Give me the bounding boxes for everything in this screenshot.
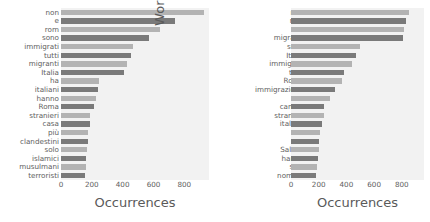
y-tick-label: più bbox=[16, 128, 60, 137]
bar bbox=[291, 10, 409, 15]
bar bbox=[61, 10, 204, 15]
bar bbox=[61, 53, 131, 58]
bar bbox=[61, 173, 85, 178]
bar-row bbox=[291, 51, 424, 60]
bar-row bbox=[61, 120, 209, 129]
bar bbox=[291, 130, 320, 135]
y-tick-labels-left: noneromsonoimmigratituttimigrantiItaliah… bbox=[16, 8, 60, 180]
bar-row bbox=[61, 42, 209, 51]
bar bbox=[291, 70, 344, 75]
bar bbox=[291, 35, 403, 40]
bar-row bbox=[291, 42, 424, 51]
bar-row bbox=[291, 68, 424, 77]
y-tick-label: solo bbox=[16, 146, 60, 155]
bar bbox=[291, 139, 319, 144]
x-tick-label: 400 bbox=[340, 181, 354, 188]
bar-row bbox=[291, 163, 424, 172]
bar-row bbox=[291, 94, 424, 103]
bar-row bbox=[291, 77, 424, 86]
bar-row bbox=[61, 77, 209, 86]
bar bbox=[291, 164, 317, 169]
bar bbox=[291, 87, 335, 92]
figure: Word noneromsonoimmigratituttimigrantiIt… bbox=[0, 0, 430, 222]
bar-row bbox=[291, 171, 424, 180]
x-tick-label: 200 bbox=[312, 181, 326, 188]
bar-row bbox=[61, 171, 209, 180]
bar bbox=[291, 96, 330, 101]
bar-row bbox=[61, 128, 209, 137]
bar-row bbox=[61, 25, 209, 34]
bar-row bbox=[61, 137, 209, 146]
bar-row bbox=[291, 128, 424, 137]
bar-series-right bbox=[291, 8, 424, 180]
y-tick-label: Roma bbox=[16, 103, 60, 112]
bar-row bbox=[291, 111, 424, 120]
bar bbox=[291, 53, 356, 58]
bar-row bbox=[61, 163, 209, 172]
bar-row bbox=[61, 154, 209, 163]
bar-row bbox=[61, 103, 209, 112]
bar-row bbox=[61, 146, 209, 155]
bar bbox=[291, 121, 322, 126]
bar bbox=[291, 147, 319, 152]
x-tick-label: 200 bbox=[85, 181, 99, 188]
plot-area-left bbox=[61, 8, 209, 180]
y-tick-label: terroristi bbox=[16, 171, 60, 180]
bar-row bbox=[61, 8, 209, 17]
bar bbox=[61, 147, 87, 152]
bar bbox=[291, 173, 316, 178]
x-tick-label: 600 bbox=[147, 181, 161, 188]
y-tick-label: musulmani bbox=[16, 163, 60, 172]
bar-row bbox=[61, 60, 209, 69]
bar bbox=[61, 35, 149, 40]
bar bbox=[61, 121, 90, 126]
y-tick-label: e bbox=[16, 17, 60, 26]
y-tick-label: migranti bbox=[16, 60, 60, 69]
bar-row bbox=[291, 146, 424, 155]
chart-panel-left: Word noneromsonoimmigratituttimigrantiIt… bbox=[0, 0, 215, 222]
x-tick-label: 800 bbox=[177, 181, 191, 188]
bar-row bbox=[291, 34, 424, 43]
x-tick-label: 400 bbox=[116, 181, 130, 188]
bar-row bbox=[61, 68, 209, 77]
bar bbox=[291, 78, 342, 83]
bar bbox=[291, 27, 404, 32]
bar bbox=[61, 139, 88, 144]
bar bbox=[61, 87, 98, 92]
bar bbox=[61, 113, 90, 118]
y-tick-label: non bbox=[16, 8, 60, 17]
bar bbox=[291, 44, 360, 49]
bar-row bbox=[61, 17, 209, 26]
chart-panel-right: Word nonromèmigrantisonoItaliaimmigratit… bbox=[215, 0, 430, 222]
bar-row bbox=[291, 25, 424, 34]
bar-row bbox=[291, 103, 424, 112]
bar bbox=[291, 18, 406, 23]
bar-series-left bbox=[61, 8, 209, 180]
bar bbox=[61, 70, 124, 75]
bar bbox=[61, 156, 86, 161]
bar-row bbox=[291, 154, 424, 163]
bar bbox=[61, 130, 88, 135]
x-tick-label: 0 bbox=[59, 181, 64, 188]
bar-row bbox=[61, 111, 209, 120]
bar bbox=[61, 78, 99, 83]
bar-row bbox=[291, 60, 424, 69]
y-tick-label: italiani bbox=[16, 85, 60, 94]
x-tick-label: 0 bbox=[289, 181, 294, 188]
bar bbox=[61, 96, 96, 101]
bar-row bbox=[61, 94, 209, 103]
plot-area-right bbox=[291, 8, 424, 180]
x-tick-label: 800 bbox=[395, 181, 409, 188]
x-tick-label: 600 bbox=[367, 181, 381, 188]
bar bbox=[61, 61, 127, 66]
bar-row bbox=[61, 51, 209, 60]
y-axis-label-right: Word bbox=[149, 0, 169, 120]
x-axis-label-left: Occurrences bbox=[61, 192, 209, 212]
bar-row bbox=[291, 85, 424, 94]
bar bbox=[291, 156, 318, 161]
bar-row bbox=[291, 137, 424, 146]
x-axis-label-right: Occurrences bbox=[291, 192, 424, 212]
bar bbox=[61, 44, 133, 49]
bar-row bbox=[291, 17, 424, 26]
bar bbox=[61, 27, 160, 32]
